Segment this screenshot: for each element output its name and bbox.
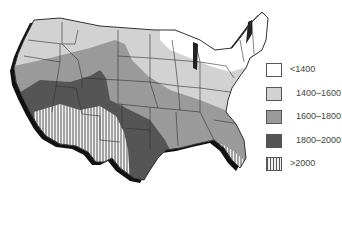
legend-item: 1600–1800 [266,110,342,134]
legend-label: <1400 [290,64,315,74]
legend-item: >2000 [266,157,342,181]
map-legend: <1400 1400–1600 1600–1800 1800–2000 >200… [266,63,342,181]
legend-item: 1800–2000 [266,134,342,158]
legend-label: >2000 [290,158,315,168]
legend-label: 1800–2000 [296,135,341,145]
legend-swatch-lt1400 [266,63,282,77]
legend-swatch-1600-1800 [266,110,282,124]
legend-swatch-1400-1600 [266,87,282,101]
legend-item: <1400 [266,63,342,87]
legend-swatch-gt2000 [266,157,282,171]
legend-label: 1400–1600 [296,88,341,98]
legend-label: 1600–1800 [296,111,341,121]
legend-item: 1400–1600 [266,87,342,111]
legend-swatch-1800-2000 [266,134,282,148]
